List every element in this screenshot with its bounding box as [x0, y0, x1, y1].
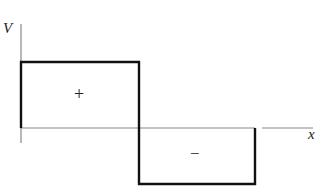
x-axis-label: x: [308, 127, 315, 142]
negative-region-label: −: [190, 145, 200, 162]
square-wave-diagram: [0, 0, 318, 195]
v-axis-label: V: [3, 21, 12, 36]
positive-region-label: +: [74, 85, 84, 103]
